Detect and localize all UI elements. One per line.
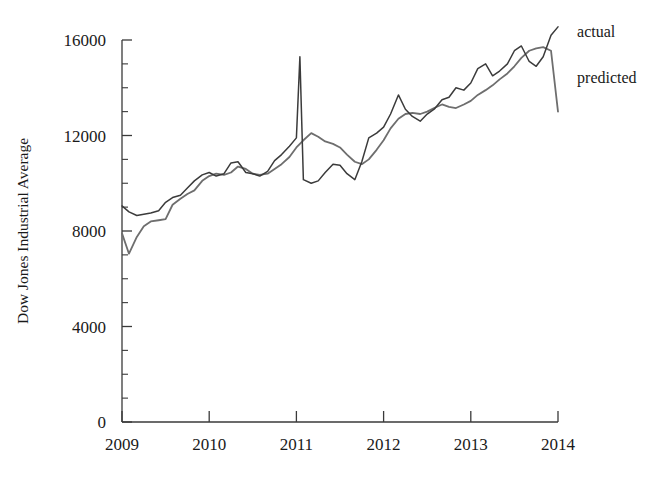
dow-jones-line-chart: 0400080001200016000 20092010201120122013… <box>0 0 667 493</box>
y-axis-title: Dow Jones Industrial Average <box>14 138 31 324</box>
y-axis-tick-label: 4000 <box>72 318 106 337</box>
legend-label-predicted: predicted <box>577 69 637 87</box>
x-axis-tick-label: 2009 <box>105 435 139 454</box>
y-axis-tick-label: 8000 <box>72 222 106 241</box>
y-axis-major-ticks <box>122 40 132 422</box>
x-axis-tick-label: 2013 <box>454 435 488 454</box>
legend-annotations: actualpredicted <box>577 23 637 88</box>
series-group <box>122 27 558 254</box>
x-axis-tick-labels: 200920102011201220132014 <box>105 435 576 454</box>
x-axis-major-ticks <box>122 411 558 422</box>
y-axis-tick-labels: 0400080001200016000 <box>64 31 107 432</box>
x-axis-tick-label: 2012 <box>367 435 401 454</box>
series-line-actual <box>122 27 558 216</box>
axes-group: 0400080001200016000 20092010201120122013… <box>64 31 576 454</box>
series-line-predicted <box>122 47 558 254</box>
x-axis-tick-label: 2010 <box>192 435 226 454</box>
x-axis-tick-label: 2011 <box>280 435 313 454</box>
x-axis-tick-label: 2014 <box>541 435 576 454</box>
chart-svg: 0400080001200016000 20092010201120122013… <box>0 0 667 493</box>
y-axis-tick-label: 16000 <box>64 31 107 50</box>
legend-label-actual: actual <box>577 23 616 40</box>
y-axis-tick-label: 12000 <box>64 127 107 146</box>
y-axis-tick-label: 0 <box>98 413 107 432</box>
